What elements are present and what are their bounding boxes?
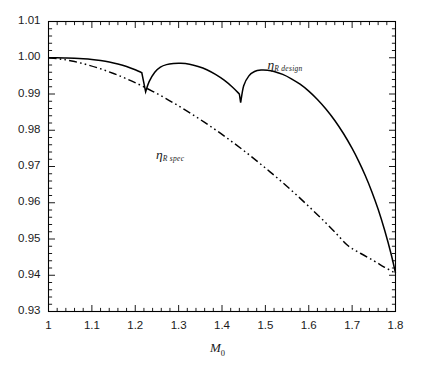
axes-frame bbox=[49, 22, 396, 312]
eta-subscript-spec: R spec bbox=[163, 153, 185, 162]
data-curves bbox=[49, 58, 396, 273]
y-tick-label: 0.99 bbox=[0, 87, 41, 99]
y-tick-label: 0.98 bbox=[0, 123, 41, 135]
axis-ticks bbox=[49, 22, 396, 312]
y-tick-label: 0.93 bbox=[0, 304, 41, 316]
chart-plot-area bbox=[0, 0, 422, 371]
x-tick-label: 1.8 bbox=[371, 319, 421, 331]
x-axis-title-subscript: 0 bbox=[221, 347, 225, 357]
figure-container: 0.930.940.950.960.970.980.991.001.01 11.… bbox=[0, 0, 422, 371]
x-axis-title: M0 bbox=[210, 340, 225, 358]
y-tick-label: 0.95 bbox=[0, 232, 41, 244]
eta-symbol-spec: η bbox=[156, 147, 163, 162]
eta-subscript-design: R design bbox=[274, 64, 302, 73]
y-tick-label: 1.00 bbox=[0, 50, 41, 62]
curve-label-eta-r-design: ηR design bbox=[268, 55, 303, 73]
y-tick-label: 1.01 bbox=[0, 14, 41, 26]
x-axis-title-symbol: M bbox=[210, 340, 221, 355]
curve-eta-r-spec bbox=[49, 58, 396, 273]
curve-eta-r-design bbox=[49, 58, 396, 273]
curve-label-eta-r-spec: ηR spec bbox=[156, 145, 184, 163]
y-tick-label: 0.97 bbox=[0, 159, 41, 171]
y-tick-label: 0.94 bbox=[0, 268, 41, 280]
y-tick-label: 0.96 bbox=[0, 195, 41, 207]
